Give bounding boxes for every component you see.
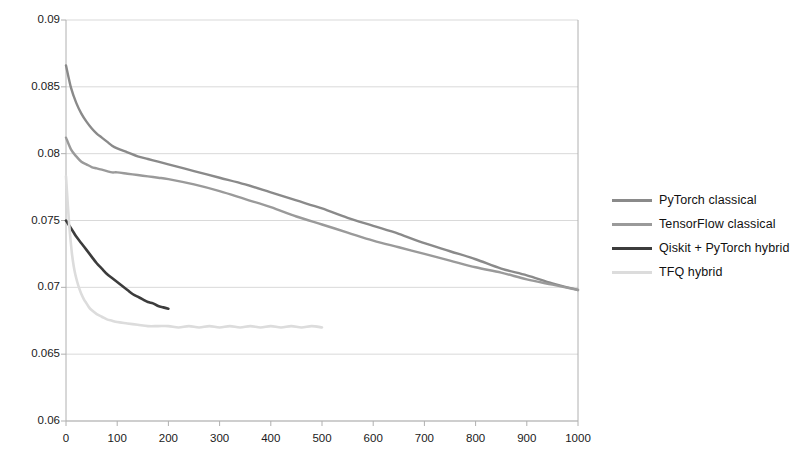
legend-swatch-icon bbox=[612, 223, 652, 226]
legend-item-label: PyTorch classical bbox=[659, 193, 757, 207]
x-axis-tick-label: 1000 bbox=[548, 433, 608, 445]
legend-swatch-icon bbox=[612, 247, 652, 250]
legend-swatch-icon bbox=[612, 199, 652, 202]
legend-item-label: TFQ hybrid bbox=[659, 265, 723, 279]
legend: PyTorch classicalTensorFlow classicalQis… bbox=[612, 188, 808, 284]
legend-item[interactable]: Qiskit + PyTorch hybrid bbox=[612, 236, 808, 260]
legend-item[interactable]: PyTorch classical bbox=[612, 188, 808, 212]
legend-item-label: Qiskit + PyTorch hybrid bbox=[659, 241, 789, 255]
legend-item[interactable]: TensorFlow classical bbox=[612, 212, 808, 236]
legend-item-label: TensorFlow classical bbox=[659, 217, 776, 231]
legend-swatch-icon bbox=[612, 271, 652, 274]
legend-item[interactable]: TFQ hybrid bbox=[612, 260, 808, 284]
loss-curve-chart: 0.060.0650.070.0750.080.0850.09 01002003… bbox=[0, 0, 810, 467]
